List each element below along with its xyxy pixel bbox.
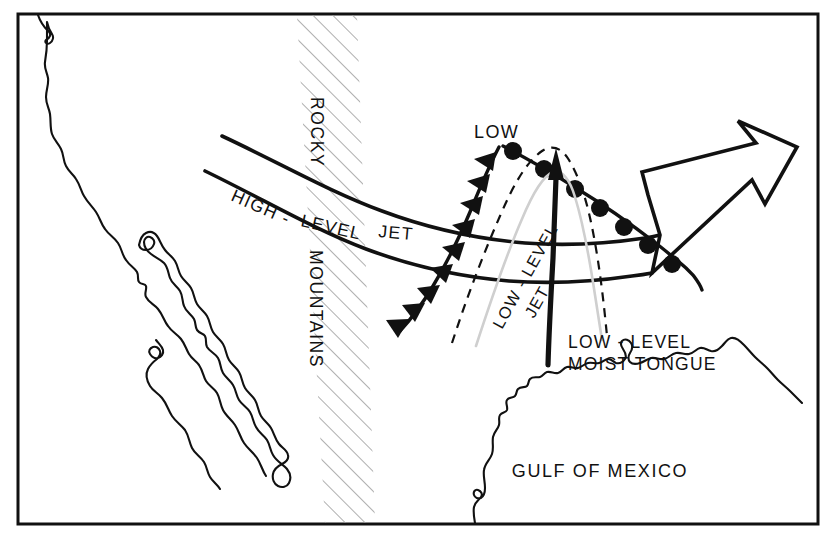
label-rocky-mountains-line1: ROCKY [307,97,327,167]
label-moist-tongue-line2: MOIST TONGUE [568,354,717,374]
label-low-center: LOW [474,122,519,142]
label-gulf-of-mexico: GULF OF MEXICO [512,461,688,481]
label-moist-tongue-line1: LOW - LEVEL [568,332,691,352]
weather-map-figure: ROCKY MOUNTAINS HIGH - LEVEL JET LOW LOW… [0,0,831,538]
weather-map-svg: ROCKY MOUNTAINS HIGH - LEVEL JET LOW LOW… [0,0,831,538]
label-high-level-jet-part3: JET [378,221,415,244]
label-rocky-mountains-line2: MOUNTAINS [306,250,326,368]
map-border [18,14,818,524]
